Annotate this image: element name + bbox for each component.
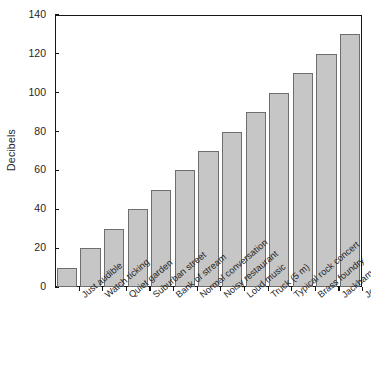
x-axis-tick-mark — [338, 287, 339, 291]
bar — [293, 73, 313, 287]
y-axis-tick-label: 100 — [28, 86, 46, 98]
x-axis-tick-label: Typical rock concert — [292, 292, 298, 300]
y-axis-title: Decibels — [0, 0, 22, 300]
y-axis-tick-mark — [55, 170, 59, 171]
x-axis-tick-label: Normal conversation — [198, 292, 204, 300]
y-axis-tick-label: 0 — [40, 280, 46, 292]
x-axis-tick-label: Brass foundry — [316, 292, 322, 300]
y-axis-tick-mark — [55, 53, 59, 54]
y-axis-tick-label: 20 — [34, 241, 46, 253]
bar — [57, 268, 77, 287]
y-axis-tick-mark — [55, 92, 59, 93]
x-axis-tick-mark — [197, 287, 198, 291]
x-axis-tick-label: Jackhammer (1 m) — [339, 292, 345, 300]
y-axis-tick-label: 120 — [28, 47, 46, 59]
bar-chart: Decibels 020406080100120140 Just audible… — [0, 0, 371, 381]
y-axis-title-label: Decibels — [5, 129, 17, 171]
x-axis-tick-label: Quiet garden — [127, 292, 133, 300]
y-axis-tick-mark — [55, 14, 59, 15]
bar — [316, 54, 336, 287]
y-axis-tick-label: 60 — [34, 163, 46, 175]
y-axis-tick-mark — [55, 248, 59, 249]
y-axis-tick-label: 140 — [28, 8, 46, 20]
x-axis-tick-label: Noisy restaurant — [221, 292, 227, 300]
x-axis-tick-label: Truck (5 m) — [269, 292, 275, 300]
x-axis-tick-mark — [149, 287, 150, 291]
y-axis-tick-label: 80 — [34, 125, 46, 137]
x-axis-tick-mark — [79, 287, 80, 291]
y-axis-tick-mark — [55, 209, 59, 210]
y-axis-tick-label: 40 — [34, 202, 46, 214]
x-axis-tick-label: Just audible — [80, 292, 86, 300]
x-axis-tick-label: Loud music — [245, 292, 251, 300]
y-axis-tick-mark — [55, 131, 59, 132]
x-axis-tick-mark — [268, 287, 269, 291]
x-axis-tick-label: Suburban street — [150, 292, 156, 300]
x-axis-tick-mark — [220, 287, 221, 291]
x-axis-tick-label: Bank of stream — [174, 292, 180, 300]
x-axis-tick-label: Jet engine (30 m) — [363, 292, 369, 300]
x-axis-tick-label: Watch ticking — [103, 292, 109, 300]
